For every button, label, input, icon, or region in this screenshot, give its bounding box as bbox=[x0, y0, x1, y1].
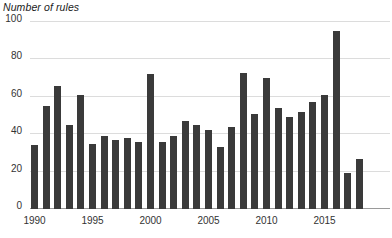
bar-chart: Number of rules 020406080100 19901995200… bbox=[0, 0, 392, 238]
bar bbox=[228, 127, 235, 209]
x-axis-tick-label: 1995 bbox=[81, 215, 103, 226]
bar bbox=[321, 95, 328, 209]
bar bbox=[101, 136, 108, 209]
bar bbox=[135, 142, 142, 209]
bar bbox=[112, 140, 119, 209]
bar bbox=[31, 145, 38, 209]
bar bbox=[77, 95, 84, 209]
y-axis-tick-label: 20 bbox=[0, 162, 22, 173]
bar bbox=[159, 142, 166, 209]
bar-series bbox=[30, 22, 390, 209]
x-axis-tick-label: 2005 bbox=[197, 215, 219, 226]
bar bbox=[217, 147, 224, 209]
bar bbox=[251, 114, 258, 209]
bar bbox=[89, 144, 96, 209]
y-axis-tick-label: 40 bbox=[0, 125, 22, 136]
bar bbox=[124, 138, 131, 209]
bar bbox=[43, 106, 50, 209]
bar bbox=[275, 108, 282, 209]
bar bbox=[193, 125, 200, 209]
bar bbox=[309, 102, 316, 209]
bar bbox=[286, 117, 293, 209]
bar bbox=[333, 31, 340, 209]
x-axis-ticks: 199019952000200520102015 bbox=[30, 211, 390, 235]
bar bbox=[298, 112, 305, 209]
bar bbox=[263, 78, 270, 209]
y-axis-tick-label: 80 bbox=[0, 50, 22, 61]
bar bbox=[205, 130, 212, 209]
bar bbox=[147, 74, 154, 209]
bar bbox=[54, 86, 61, 209]
x-axis-tick-label: 2010 bbox=[255, 215, 277, 226]
y-axis-tick-label: 100 bbox=[0, 13, 22, 24]
bar bbox=[170, 136, 177, 209]
y-axis-tick-label: 0 bbox=[0, 200, 22, 211]
bar bbox=[344, 173, 351, 209]
y-axis-tick-label: 60 bbox=[0, 87, 22, 98]
bar bbox=[240, 73, 247, 210]
bar bbox=[356, 159, 363, 209]
chart-title: Number of rules bbox=[3, 1, 79, 13]
bar bbox=[182, 121, 189, 209]
x-axis-tick-label: 2015 bbox=[313, 215, 335, 226]
plot-area: 020406080100 bbox=[30, 22, 390, 209]
x-axis-tick-label: 1990 bbox=[23, 215, 45, 226]
bar bbox=[66, 125, 73, 209]
x-axis-tick-label: 2000 bbox=[139, 215, 161, 226]
